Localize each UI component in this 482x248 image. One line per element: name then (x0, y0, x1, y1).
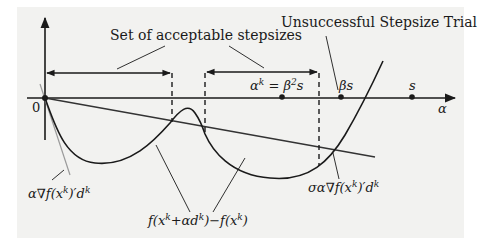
tangent-label: α∇f(xk)′dk (28, 185, 90, 201)
acceptable-set-label: Set of acceptable stepsizes (110, 27, 302, 43)
armijo-rule-diagram: Set of acceptable stepsizes Unsuccessful… (0, 0, 482, 248)
point-s (409, 94, 415, 100)
sufficient-decrease-label: σα∇f(xk)′dk (308, 179, 379, 195)
origin-point (42, 95, 48, 101)
point-beta-s (338, 94, 344, 100)
alpha-axis-label: α (438, 101, 447, 116)
beta-s-label: βs (338, 78, 354, 93)
function-label: f(xk+αdk)−f(xk) (147, 212, 248, 228)
origin-label: 0 (32, 100, 40, 115)
unsuccessful-trial-label: Unsuccessful Stepsize Trial (281, 14, 478, 30)
s-label: s (409, 78, 416, 93)
point-alpha-k (279, 94, 285, 100)
